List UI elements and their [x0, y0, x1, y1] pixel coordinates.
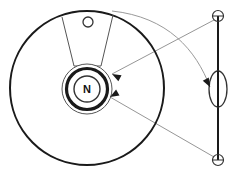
hub-label-n: N [83, 83, 91, 95]
shaft-group [209, 11, 227, 166]
rim-pin-circle [83, 17, 93, 27]
hub-group: N [62, 64, 112, 114]
diagram-canvas: N [0, 0, 238, 173]
schematic-diagram: N [0, 0, 238, 173]
